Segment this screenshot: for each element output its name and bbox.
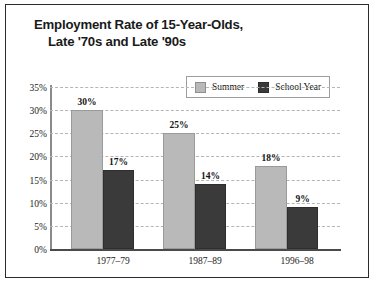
bar-value-summer-1996-98: 18% xyxy=(255,153,287,164)
y-tick-30: 30% xyxy=(15,106,47,116)
chart-figure: Employment Rate of 15-Year-Olds, Late '7… xyxy=(0,0,376,301)
plot-area: 30% 17% 25% 14% 18% 9% xyxy=(50,87,340,249)
bar-summer-1987-89 xyxy=(163,133,195,249)
y-axis-labels: 35% 30% 25% 20% 15% 10% 5% 0% xyxy=(11,0,47,301)
bar-value-school-year-1977-79: 17% xyxy=(103,157,134,168)
y-tick-0: 0% xyxy=(15,245,47,255)
bar-value-school-year-1996-98: 9% xyxy=(287,194,318,205)
y-tick-15: 15% xyxy=(15,176,47,186)
gridline-35 xyxy=(50,87,340,88)
y-tick-35: 35% xyxy=(15,83,47,93)
chart-title-line-1: Employment Rate of 15-Year-Olds, xyxy=(34,16,324,33)
y-tick-25: 25% xyxy=(15,129,47,139)
x-axis-line xyxy=(50,249,341,251)
bar-school-year-1977-79 xyxy=(103,170,134,249)
bar-school-year-1996-98 xyxy=(287,207,318,249)
chart-title-line-2: Late '70s and Late '90s xyxy=(34,33,324,50)
bar-school-year-1987-89 xyxy=(195,184,226,249)
chart-title: Employment Rate of 15-Year-Olds, Late '7… xyxy=(34,16,324,50)
y-tick-20: 20% xyxy=(15,152,47,162)
x-tick-1977-79: 1977–79 xyxy=(71,256,155,267)
bar-value-summer-1977-79: 30% xyxy=(71,97,103,108)
bar-value-school-year-1987-89: 14% xyxy=(195,171,226,182)
bar-value-summer-1987-89: 25% xyxy=(163,120,195,131)
x-tick-1987-89: 1987–89 xyxy=(163,256,247,267)
x-tick-1996-98: 1996–98 xyxy=(255,256,339,267)
y-tick-5: 5% xyxy=(15,222,47,232)
bar-summer-1977-79 xyxy=(71,110,103,249)
bar-summer-1996-98 xyxy=(255,166,287,249)
y-tick-10: 10% xyxy=(15,199,47,209)
